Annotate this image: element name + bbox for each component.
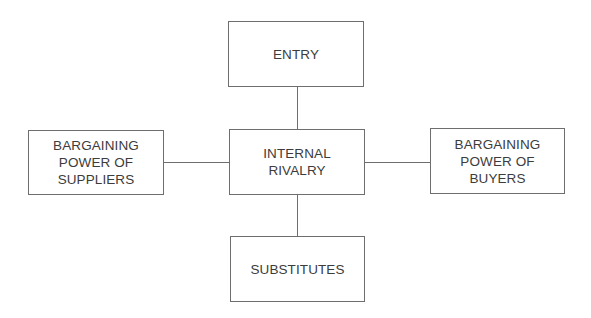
node-label: SUBSTITUTES: [250, 261, 344, 278]
node-bargaining-power-of-suppliers: BARGAINING POWER OF SUPPLIERS: [28, 130, 164, 195]
five-forces-diagram: ENTRY INTERNAL RIVALRY BARGAINING POWER …: [0, 0, 591, 318]
connector-suppliers-rivalry: [163, 162, 229, 163]
node-label: INTERNAL RIVALRY: [263, 145, 331, 179]
node-bargaining-power-of-buyers: BARGAINING POWER OF BUYERS: [430, 128, 565, 194]
node-label: BARGAINING POWER OF BUYERS: [455, 136, 541, 187]
node-entry: ENTRY: [228, 21, 364, 87]
node-substitutes: SUBSTITUTES: [230, 236, 365, 302]
node-internal-rivalry: INTERNAL RIVALRY: [229, 129, 365, 195]
connector-rivalry-buyers: [364, 162, 430, 163]
connector-rivalry-substitutes: [297, 194, 298, 236]
connector-entry-rivalry: [297, 86, 298, 129]
node-label: ENTRY: [273, 46, 319, 63]
node-label: BARGAINING POWER OF SUPPLIERS: [53, 137, 139, 188]
